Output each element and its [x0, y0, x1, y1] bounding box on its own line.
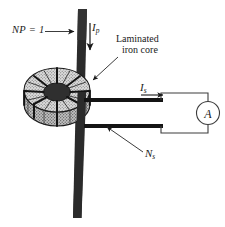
secondary-current-subscript: s	[144, 86, 147, 95]
core-label-line1: Laminated	[116, 33, 159, 44]
core-leader-arrow	[93, 57, 118, 80]
core-label-line2: iron core	[116, 45, 159, 56]
core-label: Laminated iron core	[116, 34, 159, 56]
secondary-turns-subscript: s	[152, 152, 155, 161]
ns-leader-arrow	[107, 127, 143, 152]
secondary-leads	[84, 100, 163, 126]
svg-text:A: A	[203, 107, 212, 121]
primary-current-subscript: p	[96, 26, 100, 35]
secondary-current-label: Is	[140, 82, 147, 95]
current-transformer-diagram: A NP = 1 Ip Laminated iron core Is Ns	[0, 0, 225, 227]
ammeter-icon: A	[197, 102, 220, 125]
primary-turns-label: NP = 1	[12, 24, 45, 35]
secondary-turns-label: Ns	[145, 148, 155, 161]
primary-current-label: Ip	[92, 22, 99, 35]
